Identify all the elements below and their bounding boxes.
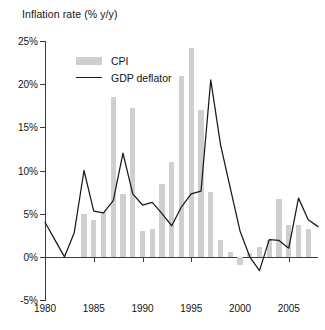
chart-legend: CPI GDP deflator <box>76 52 172 86</box>
cpi-swatch-icon <box>76 57 102 65</box>
legend-item-gdp-deflator: GDP deflator <box>76 69 172 86</box>
inflation-rate-chart: Inflation rate (% y/y) 25%20%15%10%5%0%-… <box>0 0 325 330</box>
gdp-deflator-swatch-icon <box>76 77 102 78</box>
legend-label-cpi: CPI <box>111 55 129 67</box>
legend-item-cpi: CPI <box>76 52 172 69</box>
legend-label-gdp-deflator: GDP deflator <box>111 72 172 84</box>
gdp-deflator-line-series <box>0 0 325 330</box>
